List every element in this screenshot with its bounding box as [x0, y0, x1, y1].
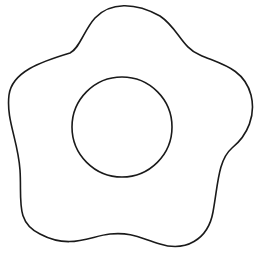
- outer-outline: [9, 6, 253, 247]
- inner-circle: [72, 77, 172, 177]
- egg-drawing: [0, 0, 254, 254]
